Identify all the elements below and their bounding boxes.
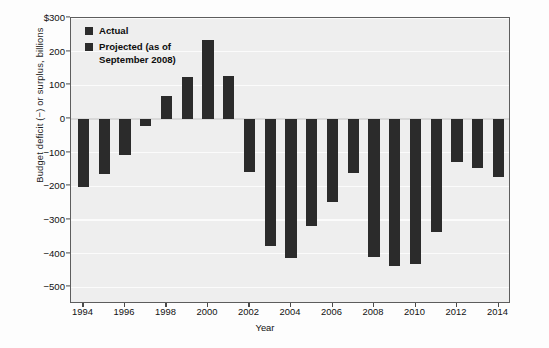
bar: [472, 119, 483, 168]
y-axis-tick-label: 0: [0, 112, 65, 123]
x-axis-title: Year: [0, 322, 549, 333]
chart-legend: ActualProjected (as of September 2008): [85, 24, 176, 69]
y-axis-tick-label: 200: [0, 45, 65, 56]
bar: [244, 119, 255, 172]
bar: [410, 119, 421, 264]
legend-label: Actual: [99, 24, 128, 38]
x-axis-tick-mark: [415, 303, 416, 307]
bar: [140, 119, 151, 126]
bar: [223, 76, 234, 119]
bar: [285, 119, 296, 258]
legend-label: Projected (as of September 2008): [99, 40, 176, 67]
bar: [78, 119, 89, 187]
y-axis-tick-label: −500: [0, 281, 65, 292]
x-axis-tick-mark: [207, 303, 208, 307]
legend-item: Projected (as of September 2008): [85, 40, 176, 67]
bar: [99, 119, 110, 174]
bar: [306, 119, 317, 226]
x-axis-tick-mark: [456, 303, 457, 307]
bar: [368, 119, 379, 257]
gridline: [71, 287, 509, 288]
x-axis-tick-mark: [290, 303, 291, 307]
bar: [265, 119, 276, 246]
bar: [161, 96, 172, 119]
y-axis-tick-label: −400: [0, 247, 65, 258]
gridline: [71, 18, 509, 19]
y-axis-tick-label: −300: [0, 213, 65, 224]
legend-swatch-icon: [85, 43, 93, 51]
budget-deficit-chart: Budget deficit (−) or surplus, billions …: [0, 0, 549, 348]
bar: [493, 119, 504, 177]
y-axis-tick-label: −100: [0, 146, 65, 157]
x-axis-tick-label: 2014: [471, 306, 525, 317]
bar: [182, 77, 193, 119]
bar: [431, 119, 442, 232]
y-axis-tick-label: −200: [0, 180, 65, 191]
bar: [119, 119, 130, 155]
x-axis-tick-mark: [165, 303, 166, 307]
x-axis-tick-mark: [498, 303, 499, 307]
bar: [327, 119, 338, 202]
bar: [451, 119, 462, 162]
legend-swatch-icon: [85, 27, 93, 35]
plot-area: ActualProjected (as of September 2008): [70, 17, 510, 303]
x-axis-tick-mark: [332, 303, 333, 307]
gridline: [71, 85, 509, 86]
bar: [348, 119, 359, 174]
y-axis-tick-label: $300: [0, 12, 65, 23]
legend-item: Actual: [85, 24, 176, 38]
bar: [202, 40, 213, 119]
y-axis-tick-label: 100: [0, 79, 65, 90]
x-axis-title-text: Year: [256, 322, 275, 333]
bar: [389, 119, 400, 266]
x-axis-tick-mark: [82, 303, 83, 307]
x-axis-tick-mark: [124, 303, 125, 307]
x-axis-tick-mark: [373, 303, 374, 307]
x-axis-tick-mark: [248, 303, 249, 307]
